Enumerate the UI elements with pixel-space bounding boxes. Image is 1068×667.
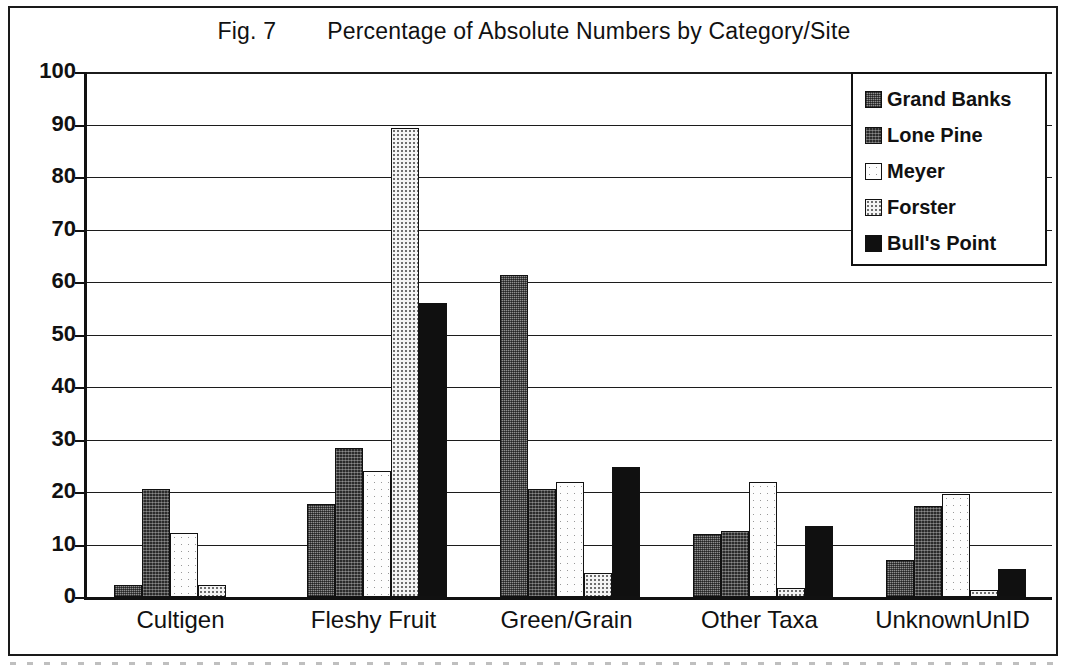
y-axis-tick-label: 20 [6,478,76,504]
y-axis-tick-mark [75,282,84,284]
legend-item-forster: Forster [865,189,1045,225]
y-axis-tick-mark [75,387,84,389]
bar-fleshy-fruit-bull-s-point [419,303,447,597]
y-axis-tick-mark [75,440,84,442]
legend-item-meyer: Meyer [865,153,1045,189]
y-axis-tick-label: 40 [6,373,76,399]
y-axis-tick-label: 0 [6,583,76,609]
y-axis-tick-label: 70 [6,216,76,242]
bar-fleshy-fruit-grand-banks [307,504,335,597]
bar-unknownunid-meyer [942,494,970,597]
y-axis-tick-mark [75,335,84,337]
bar-unknownunid-forster [970,590,998,597]
y-axis-tick-mark [75,597,84,599]
x-axis-label-unknownunid: UnknownUnID [856,606,1049,634]
x-axis-labels: CultigenFleshy FruitGreen/GrainOther Tax… [84,606,1049,634]
bar-other-taxa-forster [777,588,805,597]
legend-label-meyer: Meyer [887,161,945,181]
legend-item-grand-banks: Grand Banks [865,81,1045,117]
bar-green-grain-grand-banks [500,275,528,597]
y-axis-tick-mark [75,72,84,74]
bar-fleshy-fruit-forster [391,128,419,597]
legend-label-grand-banks: Grand Banks [887,89,1011,109]
y-axis-tick-label: 50 [6,321,76,347]
x-axis-label-cultigen: Cultigen [84,606,277,634]
chart-title: Fig. 7 Percentage of Absolute Numbers by… [0,18,1068,45]
bar-cultigen-forster [198,585,226,597]
bar-cultigen-grand-banks [114,585,142,597]
x-axis-label-fleshy-fruit: Fleshy Fruit [277,606,470,634]
legend-swatch-icon-forster [865,199,882,216]
bar-green-grain-bull-s-point [612,467,640,597]
legend-label-lone-pine: Lone Pine [887,125,983,145]
x-axis-label-green-grain: Green/Grain [470,606,663,634]
bar-other-taxa-grand-banks [693,534,721,597]
y-axis-tick-label: 90 [6,111,76,137]
figure-number: Fig. 7 [218,18,277,44]
legend-item-lone-pine: Lone Pine [865,117,1045,153]
legend-label-bull-s-point: Bull's Point [887,233,996,253]
y-axis-tick-mark [75,492,84,494]
y-axis-tick-mark [75,177,84,179]
bar-group-other-taxa [666,72,859,597]
y-axis-tick-label: 100 [6,58,76,84]
bar-other-taxa-meyer [749,482,777,598]
legend-swatch-icon-lone-pine [865,127,882,144]
bar-other-taxa-lone-pine [721,531,749,597]
legend-swatch-icon-meyer [865,163,882,180]
bar-fleshy-fruit-meyer [363,471,391,597]
x-axis-label-other-taxa: Other Taxa [663,606,856,634]
bar-group-green-grain [473,72,666,597]
legend: Grand BanksLone PineMeyerForsterBull's P… [851,72,1047,266]
bar-unknownunid-bull-s-point [998,569,1026,597]
legend-item-bull-s-point: Bull's Point [865,225,1045,261]
legend-swatch-icon-grand-banks [865,91,882,108]
bar-green-grain-forster [584,573,612,597]
title-text: Percentage of Absolute Numbers by Catego… [327,18,850,44]
bar-green-grain-lone-pine [528,489,556,597]
y-axis-tick-mark [75,125,84,127]
bar-cultigen-meyer [170,533,198,597]
y-axis-tick-mark [75,545,84,547]
y-axis-tick-label: 30 [6,426,76,452]
y-axis-tick-mark [75,230,84,232]
figure-root: Fig. 7 Percentage of Absolute Numbers by… [0,0,1068,667]
bar-other-taxa-bull-s-point [805,526,833,597]
y-axis-tick-label: 10 [6,531,76,557]
bar-unknownunid-lone-pine [914,506,942,597]
bar-green-grain-meyer [556,482,584,598]
y-axis-tick-label: 80 [6,163,76,189]
bar-group-cultigen [87,72,280,597]
bar-cultigen-lone-pine [142,489,170,597]
legend-label-forster: Forster [887,197,956,217]
y-axis-tick-label: 60 [6,268,76,294]
bar-group-fleshy-fruit [280,72,473,597]
bar-fleshy-fruit-lone-pine [335,448,363,597]
legend-swatch-icon-bull-s-point [865,235,882,252]
scan-artifact [10,662,1056,665]
bar-unknownunid-grand-banks [886,560,914,597]
